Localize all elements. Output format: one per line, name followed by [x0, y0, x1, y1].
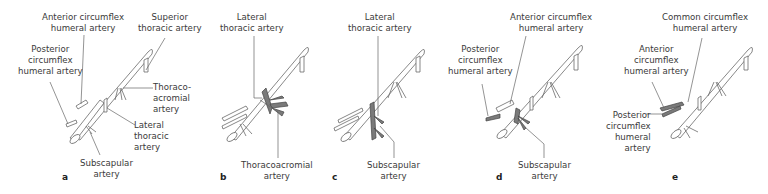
panel-letter-d: d [496, 172, 502, 182]
label-posterior-circumflex-humeral-artery-d: Posterior circumflex humeral artery [448, 44, 513, 77]
panel-c: Lateral thoracic artery Subscapular arte… [330, 0, 470, 194]
panel-b: Lateral thoracic artery Thoracoacromial … [200, 0, 330, 194]
panel-letter-b: b [220, 172, 226, 182]
label-lateral-thoracic-artery-b: Lateral thoracic artery [220, 12, 284, 34]
label-thoracoacromial-artery-b: Thoracoacromial artery [241, 160, 313, 182]
panel-e: Common circumflex humeral artery Anterio… [590, 0, 768, 194]
panel-a: Anterior circumflex humeral artery Super… [0, 0, 200, 194]
label-anterior-circumflex-humeral-artery: Anterior circumflex humeral artery [42, 12, 124, 34]
label-thoracoacromial-artery: Thoraco- acromial artery [153, 82, 191, 115]
label-subscapular-artery-c: Subscapular artery [367, 160, 420, 182]
label-superior-thoracic-artery: Superior thoracic artery [138, 12, 202, 34]
panel-letter-c: c [332, 172, 337, 182]
label-lateral-thoracic-artery-c: Lateral thoracic artery [348, 12, 412, 34]
label-lateral-thoracic-artery: Lateral thoracic artery [134, 120, 169, 153]
label-common-circumflex-humeral-artery-e: Common circumflex humeral artery [662, 12, 748, 34]
label-anterior-circumflex-humeral-artery-d: Anterior circumflex humeral artery [510, 12, 592, 34]
label-subscapular-artery: Subscapular artery [80, 158, 133, 180]
panel-d: Anterior circumflex humeral artery Poste… [470, 0, 590, 194]
panel-letter-a: a [62, 172, 68, 182]
label-subscapular-artery-d: Subscapular artery [518, 160, 571, 182]
label-posterior-circumflex-humeral-artery-e: Posterior circumflex humeral artery [606, 110, 651, 154]
label-anterior-circumflex-humeral-artery-e: Anterior circumflex humeral artery [624, 44, 689, 77]
panel-letter-e: e [672, 172, 678, 182]
label-posterior-circumflex-humeral-artery: Posterior circumflex humeral artery [18, 44, 83, 77]
